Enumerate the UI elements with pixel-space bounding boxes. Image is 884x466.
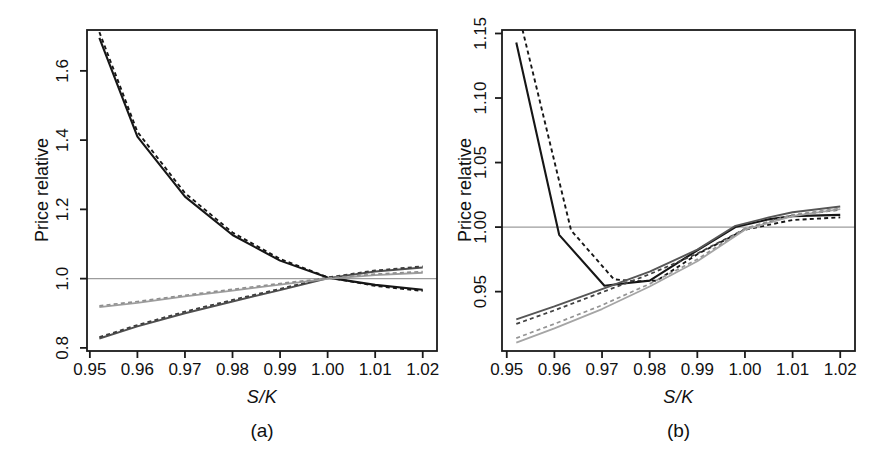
y-tick-label: 1.6 (53, 59, 72, 83)
y-tick-label: 0.95 (471, 275, 490, 308)
price-relative-figure: 0.950.960.970.980.991.001.011.020.81.01.… (0, 0, 884, 466)
series-lightgray-dashed (516, 208, 840, 338)
x-tick-label: 1.02 (824, 360, 857, 379)
x-tick-label: 0.95 (490, 360, 523, 379)
series-group (99, 32, 422, 338)
x-tick-label: 0.99 (264, 360, 297, 379)
series-black-solid (516, 43, 840, 286)
panel-b-caption: (b) (502, 420, 855, 442)
x-tick-label: 0.97 (585, 360, 618, 379)
panel-b-y-axis-label: Price relative (455, 138, 476, 242)
y-tick-label: 1.15 (471, 17, 490, 50)
panel-a-x-axis-label: S/K (87, 387, 437, 408)
y-tick-label: 0.8 (53, 336, 72, 360)
panel-a-y-axis-label: Price relative (32, 138, 53, 242)
series-black-dashed (99, 32, 422, 291)
y-tick-label: 1.4 (53, 128, 72, 152)
x-tick-label: 0.98 (216, 360, 249, 379)
x-tick-label: 1.00 (311, 360, 344, 379)
series-black-solid (99, 38, 422, 290)
panel-b-x-axis-label: S/K (502, 387, 855, 408)
x-tick-label: 1.01 (359, 360, 392, 379)
x-tick-label: 1.02 (406, 360, 439, 379)
x-tick-label: 0.96 (121, 360, 154, 379)
series-lightgray-solid (516, 209, 840, 343)
x-tick-label: 0.99 (681, 360, 714, 379)
x-tick-label: 0.97 (168, 360, 201, 379)
x-tick-label: 0.95 (73, 360, 106, 379)
y-tick-label: 1.10 (471, 81, 490, 114)
plot-box (502, 30, 855, 351)
x-tick-label: 1.00 (728, 360, 761, 379)
y-tick-label: 1.2 (53, 198, 72, 222)
panel-a-caption: (a) (87, 420, 437, 442)
series-lightgray-solid (99, 273, 422, 307)
series-black-dashed (522, 30, 840, 282)
x-tick-label: 0.96 (538, 360, 571, 379)
y-tick-label: 1.0 (53, 267, 72, 291)
series-group (516, 30, 840, 343)
x-tick-label: 1.01 (776, 360, 809, 379)
x-tick-label: 0.98 (633, 360, 666, 379)
